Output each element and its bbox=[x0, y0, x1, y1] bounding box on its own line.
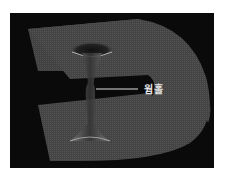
folded-spacetime-graphic bbox=[10, 13, 214, 168]
wormhole-illustration: 웜홀 bbox=[10, 13, 214, 168]
wormhole-label: 웜홀 bbox=[144, 81, 163, 96]
